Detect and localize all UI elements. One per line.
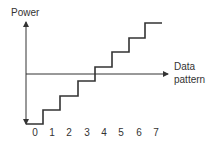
tick-0: 0	[32, 128, 38, 138]
x-axis-label-line1: Data	[174, 62, 195, 72]
tick-5: 5	[118, 128, 124, 138]
tick-2: 2	[66, 128, 72, 138]
x-axis-label-line2: pattern	[174, 75, 205, 85]
tick-3: 3	[84, 128, 90, 138]
tick-6: 6	[136, 128, 142, 138]
tick-7: 7	[153, 128, 159, 138]
tick-1: 1	[49, 128, 55, 138]
tick-4: 4	[101, 128, 107, 138]
staircase-diagram	[0, 0, 217, 146]
y-axis-label: Power	[11, 8, 39, 18]
